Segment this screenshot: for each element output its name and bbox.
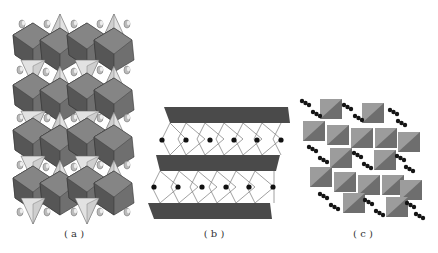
panel-c-label: ( c )	[343, 228, 383, 239]
panel-c-structure	[0, 0, 438, 253]
panel-c: ( c )	[0, 0, 438, 253]
